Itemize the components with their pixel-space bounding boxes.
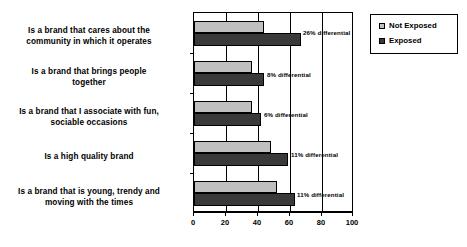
bar-not-exposed [194, 61, 252, 73]
bar-exposed [194, 73, 264, 86]
legend-swatch-icon [379, 23, 385, 29]
bar-not-exposed [194, 181, 277, 193]
x-tick [289, 212, 290, 216]
chart-legend: Not Exposed Exposed [370, 14, 458, 54]
x-axis: 0 20 40 60 80 100 [193, 212, 353, 234]
differential-annotation: 11% differential [291, 151, 338, 158]
x-tick-label: 0 [191, 218, 195, 227]
legend-item-not-exposed: Not Exposed [379, 21, 457, 30]
category-label-line: Is a brand that I associate with fun, [0, 107, 178, 118]
legend-item-exposed: Exposed [379, 36, 457, 45]
category-label-line: moving with the times [0, 198, 178, 209]
bar-not-exposed [194, 101, 252, 113]
x-tick [321, 212, 322, 216]
legend-swatch-icon [379, 38, 385, 44]
x-tick [257, 212, 258, 216]
category-label-line: Is a brand that is young, trendy and [0, 187, 178, 198]
bar-chart: Is a brand that cares about the communit… [0, 0, 467, 247]
bar-exposed [194, 33, 301, 46]
x-tick-label: 100 [346, 218, 359, 227]
differential-annotation: 8% differential [267, 71, 311, 78]
x-axis-line [193, 212, 353, 213]
x-tick [193, 212, 194, 216]
category-label: Is a high quality brand [0, 152, 178, 163]
category-label-line: Is a brand that brings people [0, 67, 178, 78]
category-label: Is a brand that brings people together [0, 67, 178, 88]
bar-not-exposed [194, 21, 264, 33]
category-label: Is a brand that I associate with fun, so… [0, 107, 178, 128]
bar-exposed [194, 113, 261, 126]
category-axis-labels: Is a brand that cares about the communit… [0, 12, 186, 212]
category-label: Is a brand that cares about the communit… [0, 26, 178, 47]
x-tick-label: 80 [317, 218, 325, 227]
x-tick [225, 212, 226, 216]
category-label-line: Is a high quality brand [0, 152, 178, 163]
differential-annotation: 6% differential [264, 111, 308, 118]
differential-annotation: 11% differential [297, 191, 344, 198]
category-label-line: sociable occasions [0, 118, 178, 129]
category-label-line: together [0, 78, 178, 89]
bar-exposed [194, 193, 295, 206]
category-label-line: Is a brand that cares about the [0, 26, 178, 37]
x-tick-label: 40 [253, 218, 261, 227]
bar-exposed [194, 153, 288, 166]
bar-not-exposed [194, 141, 271, 153]
x-tick-label: 20 [221, 218, 229, 227]
x-tick-label: 60 [285, 218, 293, 227]
differential-annotation: 26% differential [303, 29, 350, 36]
legend-label: Not Exposed [389, 21, 437, 30]
category-label-line: community in which it operates [0, 37, 178, 48]
legend-label: Exposed [389, 36, 422, 45]
category-label: Is a brand that is young, trendy and mov… [0, 187, 178, 208]
x-tick [352, 212, 353, 216]
